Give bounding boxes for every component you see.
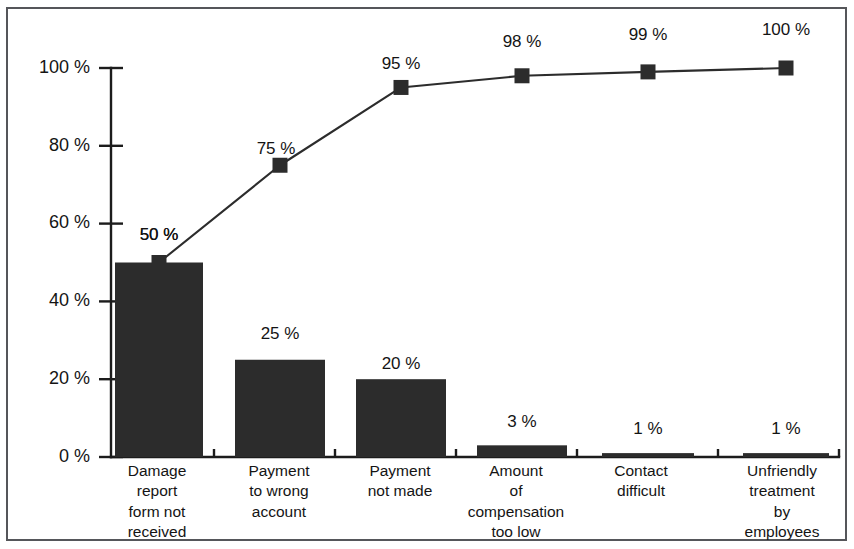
cumulative-value-labels: 50 % 75 % 95 % 98 % 99 % 100 % <box>140 20 810 244</box>
cumulative-marker-4 <box>641 64 656 79</box>
x-category-label-5: Unfriendly treatment by employees <box>720 461 844 543</box>
y-tick-label-40: 40 % <box>49 290 90 310</box>
cumulative-line <box>159 68 786 263</box>
x-category-label-4: Contact difficult <box>586 461 696 502</box>
bar-1 <box>235 360 325 457</box>
bar-5 <box>743 453 829 457</box>
bar-value-label-1: 25 % <box>261 324 300 343</box>
y-tick-label-0: 0 % <box>59 446 90 466</box>
bar-3 <box>477 445 567 457</box>
y-tick-label-20: 20 % <box>49 368 90 388</box>
y-tick-label-80: 80 % <box>49 135 90 155</box>
bars-group <box>115 263 829 458</box>
bar-value-label-5: 1 % <box>771 419 800 438</box>
x-category-label-3: Amount of compensation too low <box>452 461 580 543</box>
y-tick-label-60: 60 % <box>49 212 90 232</box>
cumulative-marker-5 <box>779 61 794 76</box>
cumulative-marker-1 <box>273 158 288 173</box>
cum-value-label-0: 50 % <box>140 225 179 244</box>
chart-frame: 0 % 20 % 40 % 60 % 80 % 100 % 50 % 25 % … <box>6 7 847 541</box>
y-tick-label-100: 100 % <box>39 57 90 77</box>
bar-0 <box>115 263 203 458</box>
cumulative-marker-0 <box>152 255 167 270</box>
bar-2 <box>356 379 446 457</box>
x-category-label-2: Payment not made <box>345 461 455 502</box>
cumulative-marker-2 <box>394 80 409 95</box>
cum-value-label-5: 100 % <box>762 20 810 39</box>
bar-4 <box>602 453 694 457</box>
cum-value-label-1: 75 % <box>257 139 296 158</box>
cumulative-marker-3 <box>515 68 530 83</box>
x-category-label-0: Damage report form not received <box>107 461 207 543</box>
bar-value-label-4: 1 % <box>633 419 662 438</box>
bar-value-label-2: 20 % <box>382 354 421 373</box>
x-category-label-1: Payment to wrong account <box>224 461 334 522</box>
cumulative-markers <box>152 61 794 271</box>
cum-value-label-2: 95 % <box>382 54 421 73</box>
y-axis-tick-labels: 0 % 20 % 40 % 60 % 80 % 100 % <box>39 57 90 466</box>
cum-value-label-4: 99 % <box>629 25 668 44</box>
bar-value-label-3: 3 % <box>507 412 536 431</box>
cum-value-label-3: 98 % <box>503 32 542 51</box>
